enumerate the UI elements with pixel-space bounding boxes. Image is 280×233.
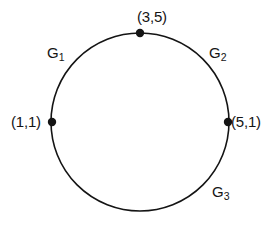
arc-label-g3: G3	[212, 184, 229, 201]
arc-label-g3-name: G	[212, 183, 223, 200]
arc-label-g2-name: G	[209, 44, 220, 61]
arc-label-g1: G1	[47, 45, 64, 62]
circle-outline	[51, 33, 229, 211]
circle-diagram: (3,5) (1,1) (5,1) G1 G2 G3	[0, 0, 280, 233]
vertex-dot-left	[48, 118, 56, 126]
vertex-label-top: (3,5)	[137, 9, 167, 24]
vertex-label-right: (5,1)	[231, 114, 261, 129]
vertex-dot-top	[136, 29, 144, 37]
arc-label-g3-subscript: 3	[224, 190, 230, 202]
arc-label-g2-subscript: 2	[221, 51, 227, 63]
arc-label-g1-subscript: 1	[59, 51, 65, 63]
vertex-label-left: (1,1)	[11, 114, 41, 129]
arc-label-g2: G2	[209, 45, 226, 62]
arc-label-g1-name: G	[47, 44, 58, 61]
